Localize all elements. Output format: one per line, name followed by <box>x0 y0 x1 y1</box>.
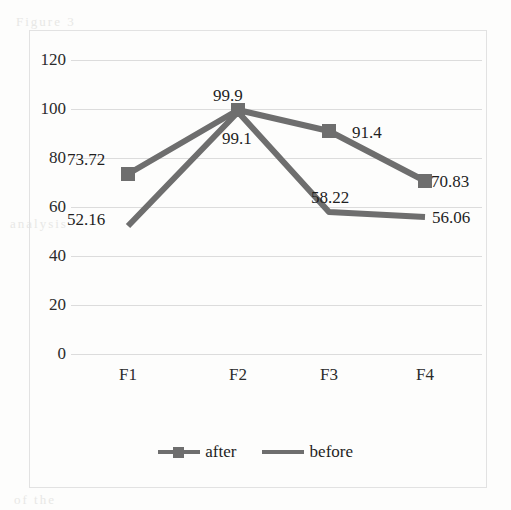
line-chart: 120 100 80 60 40 20 0 <box>0 0 511 510</box>
legend-item-after[interactable]: after <box>158 441 236 462</box>
data-label-after-f2: 99.9 <box>213 87 243 104</box>
x-axis-tick-f3: F3 <box>299 365 359 385</box>
series-path-after <box>128 110 425 181</box>
data-label-before-f2: 99.1 <box>222 130 252 147</box>
scanned-page-background: Figure 3 analysis of the 120 100 80 60 4… <box>0 0 511 510</box>
data-label-before-f1: 52.16 <box>67 211 105 228</box>
series-paths <box>0 0 511 510</box>
data-label-after-f4: 70.83 <box>431 173 469 190</box>
data-label-before-f4: 56.06 <box>432 209 470 226</box>
data-marker-after-f4 <box>418 174 432 188</box>
data-label-after-f1: 73.72 <box>67 151 105 168</box>
data-marker-after-f3 <box>322 124 336 138</box>
data-label-before-f3: 58.22 <box>311 189 349 206</box>
x-axis-tick-f4: F4 <box>395 365 455 385</box>
legend-marker-line-icon <box>262 445 304 459</box>
chart-legend: after before <box>0 441 511 462</box>
legend-marker-square-icon <box>158 445 200 459</box>
legend-item-before[interactable]: before <box>262 441 353 462</box>
x-axis-tick-f2: F2 <box>208 365 268 385</box>
legend-label-after: after <box>205 442 236 462</box>
data-marker-after-f1 <box>121 167 135 181</box>
data-marker-after-f2 <box>231 103 245 117</box>
x-axis-tick-f1: F1 <box>98 365 158 385</box>
data-label-after-f3: 91.4 <box>352 124 382 141</box>
legend-label-before: before <box>310 442 353 462</box>
